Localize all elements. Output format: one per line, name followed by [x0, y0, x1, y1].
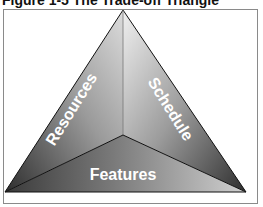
- tradeoff-triangle: Resources Schedule Features: [0, 0, 263, 207]
- features-label: Features: [90, 166, 157, 183]
